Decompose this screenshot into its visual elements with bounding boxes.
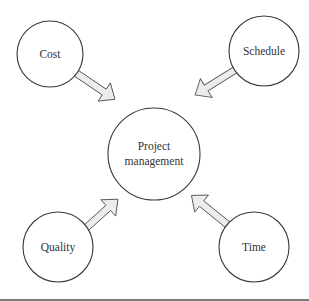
- node-label-quality: Quality: [41, 241, 76, 254]
- node-schedule: Schedule: [229, 16, 299, 86]
- node-quality: Quality: [23, 212, 93, 282]
- diagram-canvas: Project management Cost Schedule Quality…: [0, 0, 309, 301]
- node-label-time: Time: [242, 241, 266, 253]
- node-label-line-1: Project: [138, 140, 171, 153]
- node-cost: Cost: [17, 21, 83, 87]
- node-project-management: Project management: [108, 108, 200, 200]
- node-label-schedule: Schedule: [243, 45, 285, 57]
- node-time: Time: [219, 212, 289, 282]
- node-label-line-2: management: [125, 155, 185, 168]
- node-label-cost: Cost: [39, 48, 61, 60]
